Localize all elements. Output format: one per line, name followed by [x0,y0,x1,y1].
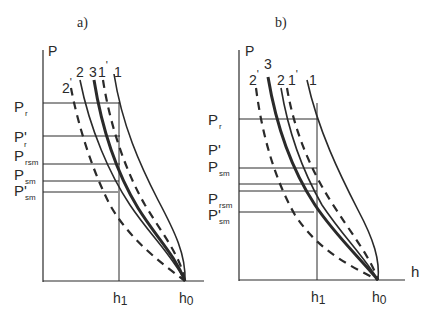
panel-b-curve-1 [307,80,378,280]
svg-text:3: 3 [89,64,97,80]
svg-text:3: 3 [264,56,272,72]
panel-a-h0-label: h0 [179,290,194,308]
svg-text:1': 1' [98,59,108,80]
panel-b-curve-labels: 2' 3 2 1' 1 [249,56,317,88]
svg-text:2: 2 [76,64,84,80]
panel-b: b) P h Pr P' Psm Prsm P'sm h1 h0 [208,15,419,307]
svg-text:1: 1 [114,64,122,80]
svg-text:2': 2' [249,68,259,88]
diagram-canvas: a) P Pr P'r Prsm Psm P'sm h1 h0 [0,0,428,315]
svg-text:Pr: Pr [208,111,222,131]
svg-text:2': 2' [62,76,72,96]
svg-text:1': 1' [288,68,298,88]
svg-text:P'r: P'r [14,128,27,149]
panel-b-level-labels: Pr P' Psm Prsm P'sm [208,111,233,226]
svg-text:P': P' [208,141,221,158]
panel-a-title: a) [77,15,88,31]
panel-a-curve-1 [114,74,185,281]
svg-text:2: 2 [277,72,285,88]
svg-text:Prsm: Prsm [14,147,39,167]
svg-text:Pr: Pr [14,98,28,118]
panel-b-y-label: P [245,43,254,59]
panel-b-h0-label: h0 [372,289,387,307]
panel-a-level-labels: Pr P'r Prsm Psm P'sm [14,98,39,202]
panel-a-y-label: P [48,43,57,59]
panel-a-h1-label: h1 [113,290,128,308]
panel-b-title: b) [275,15,287,31]
panel-a: a) P Pr P'r Prsm Psm P'sm h1 h0 [14,15,204,308]
svg-text:Psm: Psm [208,158,230,178]
panel-b-x-label: h [411,263,419,280]
panel-b-h1-label: h1 [311,289,326,307]
svg-text:1: 1 [309,72,317,88]
